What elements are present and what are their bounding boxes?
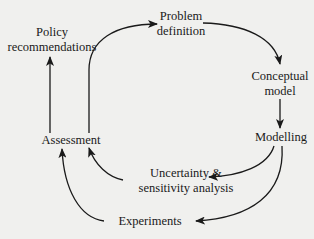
diagram-canvas: Policy recommendations Problem definitio…	[0, 0, 314, 239]
node-experiments: Experiments	[118, 214, 181, 229]
node-conceptual-line2: model	[252, 84, 309, 99]
node-conceptual-model: Conceptual model	[252, 69, 309, 99]
node-uncertainty-sensitivity: Uncertainty & sensitivity analysis	[139, 166, 234, 196]
node-assessment-line1: Assessment	[41, 133, 100, 148]
node-assessment: Assessment	[41, 133, 100, 148]
arrow-assessment-to-problem	[89, 24, 157, 133]
node-conceptual-line1: Conceptual	[252, 69, 309, 84]
node-policy-recommendations: Policy recommendations	[8, 25, 97, 55]
node-policy-line2: recommendations	[8, 40, 97, 55]
node-problem-line2: definition	[157, 24, 206, 39]
node-problem-definition: Problem definition	[157, 9, 206, 39]
node-problem-line1: Problem	[157, 9, 206, 24]
arrow-uncertainty-to-assessment	[89, 148, 123, 180]
node-experiments-line1: Experiments	[118, 214, 181, 229]
arrow-experiments-to-assessment	[62, 149, 104, 221]
node-modelling: Modelling	[255, 130, 307, 145]
node-policy-line1: Policy	[8, 25, 97, 40]
arrow-problem-to-conceptual	[203, 23, 280, 64]
node-uncertainty-line2: sensitivity analysis	[139, 181, 234, 196]
node-modelling-line1: Modelling	[255, 130, 307, 145]
node-uncertainty-line1: Uncertainty &	[139, 166, 234, 181]
